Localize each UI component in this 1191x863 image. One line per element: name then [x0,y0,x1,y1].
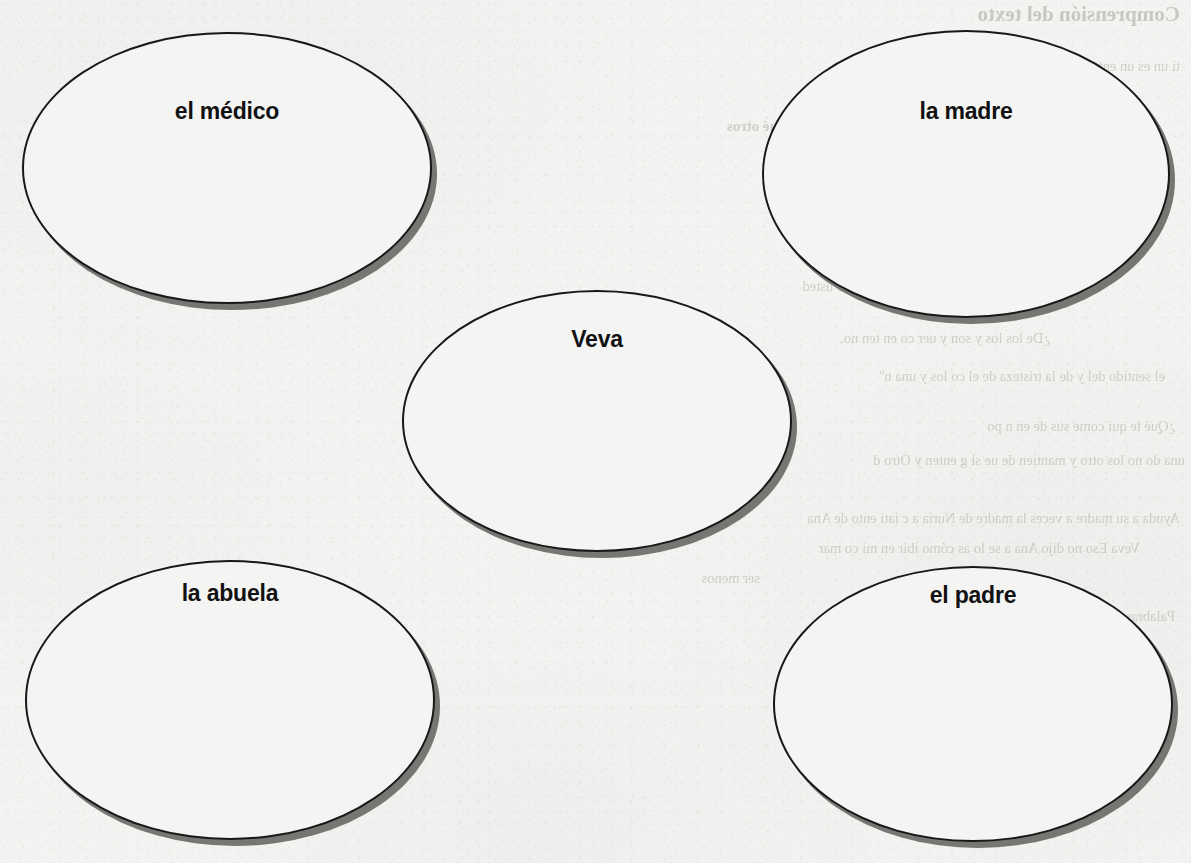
worksheet-page: Comprensión del textoti un es un enta un… [0,0,1191,863]
bleed-through-line: ¿De los los y son y uer co en ten no. [840,330,1050,347]
ellipse-outline [762,30,1170,318]
bleed-through-line: el sentido del y de la tristeza de el co… [880,368,1165,385]
ellipse-node-abuela[interactable]: la abuela [25,560,435,840]
ellipse-node-veva[interactable]: Veva [402,290,792,552]
ellipse-label-madre: la madre [762,100,1170,123]
ellipse-node-padre[interactable]: el padre [773,566,1173,842]
ellipse-label-medico: el médico [22,100,432,123]
ellipse-label-padre: el padre [773,584,1173,607]
ellipse-label-veva: Veva [402,328,792,351]
ellipse-outline [22,32,432,304]
ellipse-node-madre[interactable]: la madre [762,30,1170,318]
ellipse-node-medico[interactable]: el médico [22,32,432,304]
bleed-through-line: ¿Qué te qui come sus de en n po [987,418,1175,435]
bleed-through-line: ser menos [702,570,760,587]
bleed-through-line: Comprensión del texto [977,2,1180,27]
bleed-through-line: Veva Eso no dijo Ana a se lo as cómo ibi… [819,540,1140,557]
ellipse-label-abuela: la abuela [25,582,435,605]
bleed-through-line: Ayuda a su madre a veces la madre de Nur… [807,510,1180,527]
bleed-through-line: una do no los otro y mantien de ue si g … [873,452,1185,469]
